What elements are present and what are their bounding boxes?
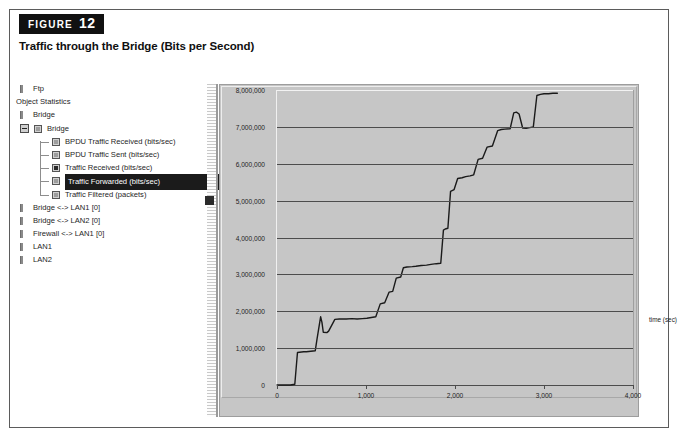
y-axis-tick-label: 8,000,000 (236, 87, 265, 94)
tree-item[interactable]: BPDU Traffic Sent (bits/sec) (16, 148, 221, 161)
tree-item[interactable]: Bridge <-> LAN1 [0] (16, 201, 221, 214)
scrollbar-strip-edge (216, 84, 218, 417)
x-axis-tick-label: 4,000 (625, 392, 642, 399)
tree-item[interactable]: Bridge <-> LAN2 [0] (16, 214, 221, 227)
tree-connector (40, 155, 49, 156)
x-axis-tick-label: 2,000 (447, 392, 464, 399)
tree-item[interactable]: BPDU Traffic Received (bits/sec) (16, 135, 221, 148)
object-statistics-tree[interactable]: FtpObject StatisticsBridgeBridgeBPDU Tra… (16, 82, 221, 267)
x-axis-tick (455, 385, 456, 389)
tree-item-label: Ftp (33, 82, 44, 95)
statistic-checkbox-icon[interactable] (34, 125, 42, 133)
tree-item-label: LAN1 (33, 240, 52, 253)
x-axis-tick (366, 385, 367, 389)
x-axis-tick-label: 0 (275, 392, 279, 399)
tree-leaf-bar-icon (20, 85, 23, 93)
tree-item-label: Traffic Filtered (packets) (65, 188, 146, 201)
statistic-checkbox-icon[interactable] (52, 191, 60, 199)
tree-item-label: Firewall <-> LAN1 [0] (33, 227, 104, 240)
y-axis-tick-label: 3,000,000 (236, 271, 265, 278)
statistic-checkbox-checked-icon[interactable] (52, 164, 60, 172)
scrollbar-thumb[interactable] (205, 196, 214, 205)
tree-item[interactable]: Object Statistics (16, 95, 221, 108)
figure-number: 12 (79, 15, 96, 31)
statistic-checkbox-icon[interactable] (52, 151, 60, 159)
x-axis-title: time (sec) (649, 316, 677, 323)
tree-item[interactable]: Traffic Received (bits/sec) (16, 161, 221, 174)
tree-item-label: Bridge (33, 108, 55, 121)
tree-item-label: Bridge <-> LAN1 [0] (33, 201, 100, 214)
gridline-horizontal (277, 127, 633, 128)
tree-connector (40, 195, 49, 196)
tree-leaf-bar-icon (20, 256, 23, 264)
tree-leaf-bar-icon (20, 204, 23, 212)
figure-tag-word: FIGURE (28, 19, 73, 30)
tree-item-label: Bridge <-> LAN2 [0] (33, 214, 100, 227)
tree-item[interactable]: Bridge (16, 122, 221, 135)
gridline-horizontal (277, 164, 633, 165)
tree-connector (40, 142, 49, 143)
gridline-horizontal (277, 274, 633, 275)
tree-item-label: Object Statistics (16, 95, 70, 108)
tree-item[interactable]: Traffic Forwarded (bits/sec) (16, 174, 221, 187)
tree-item[interactable]: Bridge (16, 108, 221, 121)
y-axis-tick-label: 0 (261, 382, 265, 389)
y-axis-tick-label: 5,000,000 (236, 197, 265, 204)
y-axis-tick-label: 6,000,000 (236, 160, 265, 167)
tree-connector-vertical (40, 141, 41, 196)
tree-item-label: Bridge (47, 122, 69, 135)
tree-item-label: BPDU Traffic Sent (bits/sec) (65, 148, 159, 161)
tree-leaf-bar-icon (20, 111, 23, 119)
x-axis-tick (277, 385, 278, 389)
statistic-checkbox-icon[interactable] (52, 177, 60, 185)
y-axis-tick-label: 1,000,000 (236, 345, 265, 352)
x-axis-tick-label: 3,000 (536, 392, 553, 399)
tree-leaf-bar-icon (20, 230, 23, 238)
gridline-horizontal (277, 201, 633, 202)
gridline-horizontal (277, 348, 633, 349)
x-axis-tick (633, 385, 634, 389)
gridline-horizontal (277, 90, 633, 91)
plot-area[interactable]: 01,0002,0003,0004,000 (277, 90, 633, 385)
gridline-horizontal (277, 238, 633, 239)
x-axis-tick-label: 1,000 (358, 392, 375, 399)
tree-item[interactable]: Firewall <-> LAN1 [0] (16, 227, 221, 240)
statistic-checkbox-icon[interactable] (52, 138, 60, 146)
figure-page: FIGURE 12 Traffic through the Bridge (Bi… (0, 0, 681, 445)
tree-item-label: Traffic Received (bits/sec) (65, 161, 152, 174)
tree-item[interactable]: Ftp (16, 82, 221, 95)
tree-leaf-bar-icon (20, 217, 23, 225)
tree-item[interactable]: LAN2 (16, 253, 221, 266)
tree-connector (40, 181, 49, 182)
y-axis-labels: 01,000,0002,000,0003,000,0004,000,0005,0… (219, 90, 273, 386)
tree-item[interactable]: LAN1 (16, 240, 221, 253)
tree-item-label: BPDU Traffic Received (bits/sec) (65, 135, 175, 148)
gridline-horizontal (277, 311, 633, 312)
x-axis-tick (544, 385, 545, 389)
tree-leaf-bar-icon (20, 243, 23, 251)
y-axis-tick-label: 4,000,000 (236, 234, 265, 241)
tree-item[interactable]: Traffic Filtered (packets) (16, 188, 221, 201)
figure-tag: FIGURE 12 (19, 14, 104, 34)
y-axis-tick-label: 2,000,000 (236, 308, 265, 315)
tree-connector (40, 168, 49, 169)
y-axis-tick-label: 7,000,000 (236, 123, 265, 130)
tree-collapse-icon[interactable] (20, 124, 29, 133)
plot-right-edge (633, 90, 634, 386)
tree-item-label: LAN2 (33, 253, 52, 266)
data-line (277, 93, 557, 385)
figure-caption: Traffic through the Bridge (Bits per Sec… (19, 40, 254, 52)
